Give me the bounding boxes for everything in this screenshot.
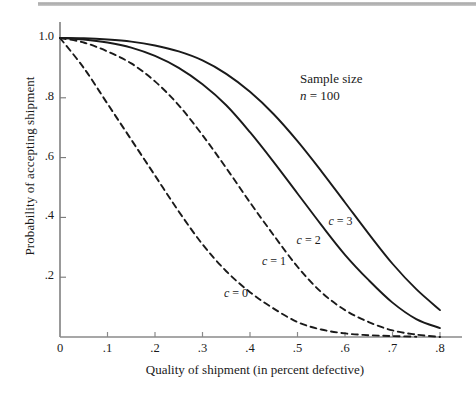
axes xyxy=(60,22,462,337)
sample-size-value: n = 100 xyxy=(300,87,362,104)
c-value: = 0 xyxy=(229,286,248,300)
y-axis-title: Probability of accepting shipment xyxy=(22,51,38,281)
oc-curves xyxy=(60,38,440,337)
n-value: = 100 xyxy=(307,88,340,103)
x-tick-label: .1 xyxy=(94,341,122,356)
c-value: = 2 xyxy=(302,233,321,247)
x-tick-label: .6 xyxy=(331,341,359,356)
curve-label-c2: c = 2 xyxy=(297,233,321,248)
oc-curve-3 xyxy=(60,38,440,310)
oc-curve-plot xyxy=(0,0,476,394)
c-value: = 3 xyxy=(334,214,353,228)
x-tick-label: .2 xyxy=(141,341,169,356)
x-axis-title: Quality of shipment (in percent defectiv… xyxy=(60,362,450,378)
curve-label-c1: c = 1 xyxy=(262,254,286,269)
figure-container: .2.4.6.81.0 0.1.2.3.4.5.6.7.8 c = 0c = 1… xyxy=(0,0,476,394)
c-value: = 1 xyxy=(267,254,286,268)
x-tick-label: .3 xyxy=(189,341,217,356)
sample-size-annotation: Sample size n = 100 xyxy=(300,70,362,104)
x-tick-label: 0 xyxy=(46,341,74,356)
x-tick-label: .7 xyxy=(379,341,407,356)
y-tick-label: 1.0 xyxy=(14,29,54,44)
x-tick-label: .5 xyxy=(284,341,312,356)
x-tick-label: .8 xyxy=(426,341,454,356)
y-tick-marks xyxy=(60,38,66,277)
curve-label-c0: c = 0 xyxy=(224,286,248,301)
oc-curve-2 xyxy=(60,38,440,328)
sample-size-label: Sample size xyxy=(300,70,362,87)
x-tick-label: .4 xyxy=(236,341,264,356)
curve-label-c3: c = 3 xyxy=(328,214,352,229)
